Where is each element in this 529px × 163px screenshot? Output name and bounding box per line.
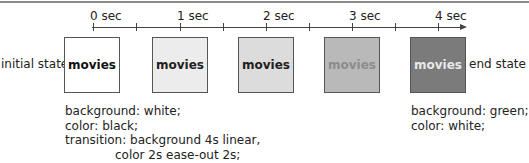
frame-box: movies — [64, 37, 120, 93]
tick-label: 0 sec — [90, 9, 122, 23]
axis-tick — [93, 23, 94, 31]
axis-tick — [180, 23, 181, 31]
tick-label: 4 sec — [435, 9, 467, 23]
initial-css-line: background: white; — [65, 104, 181, 119]
tick-label: 2 sec — [263, 9, 295, 23]
end-state-label: end state — [469, 57, 526, 71]
initial-css-line: color: black; — [65, 119, 138, 134]
end-css-line: background: green; — [411, 104, 529, 119]
axis-tick — [438, 23, 439, 31]
frame-text: movies — [242, 58, 290, 72]
axis-tick — [223, 23, 224, 31]
axis-line — [92, 27, 462, 28]
initial-css-line: transition: background 4s linear, — [65, 133, 260, 148]
frame-box: movies — [410, 37, 466, 93]
tick-label: 3 sec — [349, 9, 381, 23]
axis-tick — [309, 23, 310, 31]
axis-tick — [136, 23, 137, 31]
tick-label: 1 sec — [177, 9, 209, 23]
axis-tick — [352, 23, 353, 31]
frame-text: movies — [68, 58, 116, 72]
initial-state-label: initial state — [1, 57, 68, 71]
frame-text: movies — [414, 58, 462, 72]
frame-box: movies — [324, 37, 380, 93]
frame-box: movies — [152, 37, 208, 93]
end-css-line: color: white; — [411, 119, 485, 134]
frame-text: movies — [328, 58, 376, 72]
initial-css-line: color 2s ease-out 2s; — [115, 148, 240, 163]
top-border — [0, 1, 529, 3]
axis-arrow-icon — [460, 24, 467, 30]
axis-tick — [395, 23, 396, 31]
frame-box: movies — [238, 37, 294, 93]
frame-text: movies — [156, 58, 204, 72]
axis-tick — [266, 23, 267, 31]
